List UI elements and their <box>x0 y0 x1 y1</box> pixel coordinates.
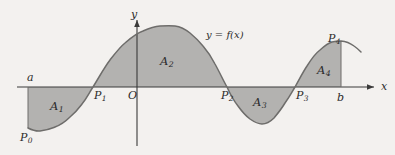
x-axis-label: x <box>381 81 387 92</box>
area-a1-sub: 1 <box>58 105 63 114</box>
shaded-areas <box>28 26 341 132</box>
origin-label: O <box>128 90 137 101</box>
area-label-a1: A1 <box>50 101 64 114</box>
right-bound-label: b <box>337 92 344 103</box>
point-label-p1: P1 <box>94 90 107 103</box>
area-a4-sub: 4 <box>325 69 330 78</box>
area-label-a2: A2 <box>160 56 174 69</box>
point-p1-sub: 1 <box>101 94 106 103</box>
signed-area-figure: a b O x y y = f(x) P0 P1 P2 P3 P4 A1 A2 … <box>0 0 395 155</box>
curve-equation-text: y = f(x) <box>206 29 244 40</box>
left-bound-label: a <box>27 72 34 83</box>
point-p2-sub: 2 <box>228 94 233 103</box>
curve-equation-label: y = f(x) <box>206 30 244 40</box>
area-a3-sub: 3 <box>261 101 266 110</box>
point-label-p2: P2 <box>221 90 234 103</box>
area-a2-sub: 2 <box>168 60 173 69</box>
point-p3-sub: 3 <box>303 94 308 103</box>
area-label-a3: A3 <box>253 97 267 110</box>
plot-canvas <box>0 0 395 155</box>
point-p4-sub: 4 <box>335 37 340 46</box>
y-axis-label: y <box>131 9 137 20</box>
point-label-p0: P0 <box>20 132 33 145</box>
point-label-p4: P4 <box>328 33 341 46</box>
point-label-p3: P3 <box>296 90 309 103</box>
point-p0-sub: 0 <box>27 136 32 145</box>
area-label-a4: A4 <box>317 65 331 78</box>
